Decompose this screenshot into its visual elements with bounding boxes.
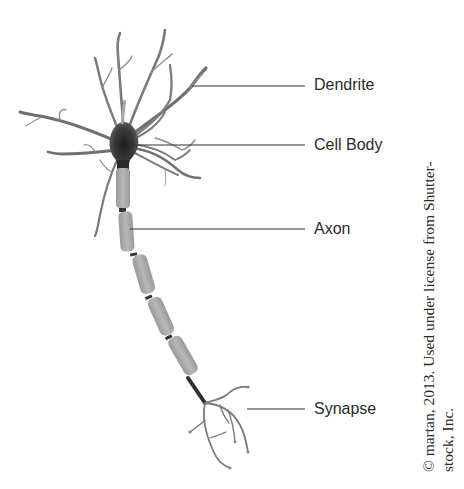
neuron-illustration [0, 0, 464, 489]
credit-line-1: © martan, 2013. Used under license from … [419, 161, 438, 472]
image-credit: © martan, 2013. Used under license from … [419, 161, 457, 472]
neuron-diagram: Dendrite Cell Body Axon Synapse © martan… [0, 0, 464, 489]
axon-shape [116, 168, 205, 403]
leader-lines [130, 86, 305, 409]
label-synapse: Synapse [314, 401, 376, 417]
credit-line-2: stock, Inc. [438, 161, 457, 472]
axon-terminals [188, 385, 249, 469]
label-dendrite: Dendrite [314, 77, 374, 93]
label-cell-body: Cell Body [314, 137, 382, 153]
label-axon: Axon [314, 221, 350, 237]
